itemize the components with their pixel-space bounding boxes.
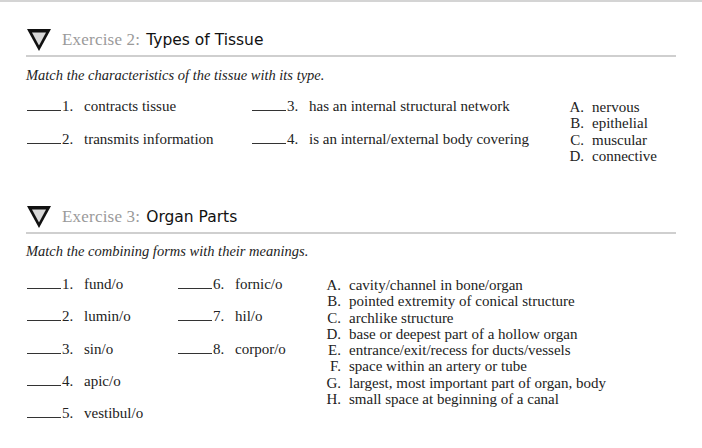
exercise-2-header: Exercise 2: Types of Tissue xyxy=(26,27,263,53)
exercise-3-header: Exercise 3: Organ Parts xyxy=(26,204,237,230)
answer-option: C. muscular xyxy=(560,132,657,148)
question-item: 1. contracts tissue xyxy=(27,98,176,115)
question-text: lumin/o xyxy=(84,308,131,325)
answer-option: A. nervous xyxy=(560,99,657,115)
option-text: largest, most important part of organ, b… xyxy=(349,375,606,391)
answer-blank[interactable] xyxy=(252,131,286,144)
question-number: 2. xyxy=(62,308,84,325)
answer-option: D. connective xyxy=(560,148,657,164)
question-text: fornic/o xyxy=(235,276,282,293)
instruction-text: Match the combining forms with their mea… xyxy=(26,243,308,260)
option-text: small space at beginning of a canal xyxy=(349,391,559,407)
option-letter: H. xyxy=(317,391,341,407)
exercise-label: Exercise 3: xyxy=(62,207,140,227)
answer-blank[interactable] xyxy=(27,405,61,418)
option-text: archlike structure xyxy=(349,310,454,326)
answer-option: G. largest, most important part of organ… xyxy=(317,375,606,391)
question-item: 7. hil/o xyxy=(178,308,263,325)
answer-option: D. base or deepest part of a hollow orga… xyxy=(317,326,606,342)
answer-blank[interactable] xyxy=(252,98,286,111)
question-number: 1. xyxy=(62,98,84,115)
section-divider xyxy=(26,55,676,57)
question-number: 3. xyxy=(62,341,84,358)
question-number: 4. xyxy=(287,131,309,148)
question-text: contracts tissue xyxy=(84,98,176,115)
answer-blank[interactable] xyxy=(27,276,61,289)
answer-option: H. small space at beginning of a canal xyxy=(317,391,606,407)
question-text: fund/o xyxy=(84,276,123,293)
question-item: 3. sin/o xyxy=(27,341,113,358)
option-text: space within an artery or tube xyxy=(349,358,527,374)
section-divider xyxy=(26,232,676,234)
question-number: 3. xyxy=(287,98,309,115)
option-letter: A. xyxy=(317,277,341,293)
question-item: 3. has an internal structural network xyxy=(252,98,510,115)
option-text: cavity/channel in bone/organ xyxy=(349,277,523,293)
answer-blank[interactable] xyxy=(178,341,212,354)
exercise-title: Organ Parts xyxy=(146,208,237,226)
answer-option: A. cavity/channel in bone/organ xyxy=(317,277,606,293)
answer-blank[interactable] xyxy=(27,98,61,111)
option-text: entrance/exit/recess for ducts/vessels xyxy=(349,342,571,358)
question-number: 1. xyxy=(62,276,84,293)
question-item: 5. vestibul/o xyxy=(27,405,143,422)
question-text: sin/o xyxy=(84,341,113,358)
question-item: 1. fund/o xyxy=(27,276,123,293)
question-item: 4. is an internal/external body covering xyxy=(252,131,529,148)
down-triangle-icon xyxy=(26,28,52,52)
question-number: 6. xyxy=(213,276,235,293)
answer-blank[interactable] xyxy=(27,131,61,144)
option-text: connective xyxy=(592,148,657,164)
question-item: 2. lumin/o xyxy=(27,308,131,325)
option-text: nervous xyxy=(592,99,640,115)
answer-blank[interactable] xyxy=(27,341,61,354)
question-number: 5. xyxy=(62,405,84,422)
option-letter: A. xyxy=(560,99,584,115)
top-divider xyxy=(0,0,702,2)
exercise-label: Exercise 2: xyxy=(62,30,140,50)
question-item: 2. transmits information xyxy=(27,131,214,148)
question-text: apic/o xyxy=(84,373,121,390)
question-text: corpor/o xyxy=(235,341,286,358)
option-letter: D. xyxy=(317,326,341,342)
option-letter: E. xyxy=(317,342,341,358)
question-number: 7. xyxy=(213,308,235,325)
option-letter: D. xyxy=(560,148,584,164)
option-text: epithelial xyxy=(592,115,648,131)
question-item: 6. fornic/o xyxy=(178,276,282,293)
question-number: 4. xyxy=(62,373,84,390)
instruction-text: Match the characteristics of the tissue … xyxy=(26,67,324,84)
question-text: transmits information xyxy=(84,131,214,148)
option-text: pointed extremity of conical structure xyxy=(349,293,575,309)
answer-blank[interactable] xyxy=(178,308,212,321)
question-text: vestibul/o xyxy=(84,405,143,422)
question-number: 8. xyxy=(213,341,235,358)
answer-option: B. pointed extremity of conical structur… xyxy=(317,293,606,309)
answer-options: A. cavity/channel in bone/organ B. point… xyxy=(317,277,606,407)
answer-options: A. nervous B. epithelial C. muscular D. … xyxy=(560,99,657,164)
option-letter: B. xyxy=(317,293,341,309)
answer-blank[interactable] xyxy=(27,373,61,386)
exercise-title: Types of Tissue xyxy=(146,31,263,49)
answer-blank[interactable] xyxy=(27,308,61,321)
option-letter: F. xyxy=(317,358,341,374)
question-text: hil/o xyxy=(235,308,263,325)
question-item: 8. corpor/o xyxy=(178,341,286,358)
option-letter: C. xyxy=(317,310,341,326)
down-triangle-icon xyxy=(26,205,52,229)
option-letter: C. xyxy=(560,132,584,148)
option-text: muscular xyxy=(592,132,647,148)
option-text: base or deepest part of a hollow organ xyxy=(349,326,577,342)
option-letter: G. xyxy=(317,375,341,391)
answer-option: E. entrance/exit/recess for ducts/vessel… xyxy=(317,342,606,358)
answer-blank[interactable] xyxy=(178,276,212,289)
answer-option: B. epithelial xyxy=(560,115,657,131)
answer-option: F. space within an artery or tube xyxy=(317,358,606,374)
question-text: has an internal structural network xyxy=(309,98,510,115)
question-text: is an internal/external body covering xyxy=(309,131,529,148)
question-number: 2. xyxy=(62,131,84,148)
answer-option: C. archlike structure xyxy=(317,310,606,326)
question-item: 4. apic/o xyxy=(27,373,121,390)
option-letter: B. xyxy=(560,115,584,131)
